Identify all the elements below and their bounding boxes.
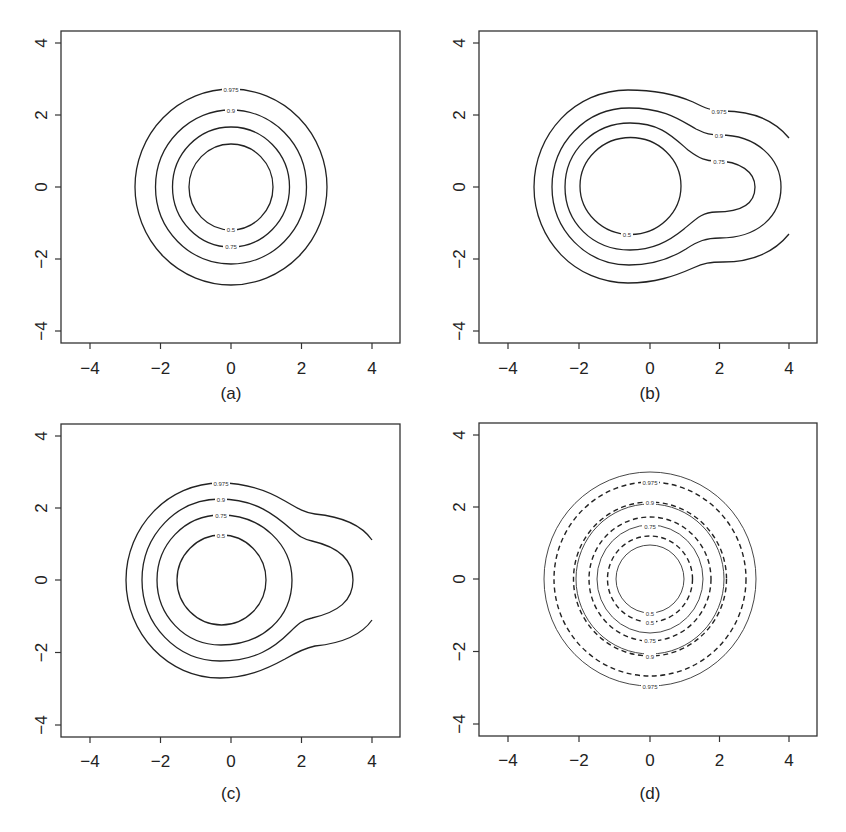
y-tick-label: 0 bbox=[32, 182, 51, 191]
x-tick-label: 2 bbox=[715, 751, 724, 770]
x-tick-label: −2 bbox=[569, 359, 588, 378]
y-tick-label: 2 bbox=[450, 502, 469, 511]
contour-label: 0.975 bbox=[642, 480, 658, 486]
contour-label: 0.9 bbox=[227, 108, 236, 114]
x-tick-label: −4 bbox=[498, 359, 517, 378]
x-tick-label: 0 bbox=[226, 752, 235, 771]
dashed-contour-0.5 bbox=[608, 536, 693, 622]
contour-0.975 bbox=[135, 89, 327, 285]
x-tick-label: −2 bbox=[151, 752, 170, 771]
y-axis: −4 −2 0 2 4 bbox=[450, 38, 479, 340]
x-axis: −4 −2 0 2 4 bbox=[80, 737, 376, 771]
contour-0.5 bbox=[177, 535, 266, 625]
x-tick-label: 4 bbox=[367, 752, 376, 771]
contour-0.5 bbox=[580, 138, 681, 235]
x-tick-label: 2 bbox=[297, 359, 306, 378]
x-tick-label: 4 bbox=[784, 751, 793, 770]
y-tick-label: −4 bbox=[32, 715, 51, 734]
y-tick-label: −2 bbox=[450, 642, 469, 661]
contour-label: 0.5 bbox=[227, 227, 236, 233]
contour-label: 0.9 bbox=[646, 500, 655, 506]
contour-labels: 0.975 0.9 0.75 0.5 bbox=[621, 108, 728, 238]
contour-label: 0.75 bbox=[644, 638, 656, 644]
contour-0.9 bbox=[142, 499, 353, 661]
contour-label: 0.975 bbox=[711, 109, 727, 115]
contour-label: 0.5 bbox=[646, 611, 655, 617]
y-tick-label: 2 bbox=[450, 110, 469, 119]
contour-lines bbox=[534, 90, 789, 283]
contour-label: 0.975 bbox=[223, 87, 239, 93]
x-tick-label: 0 bbox=[645, 359, 654, 378]
y-tick-label: 0 bbox=[32, 575, 51, 584]
y-tick-label: 0 bbox=[450, 182, 469, 191]
y-tick-label: 4 bbox=[32, 38, 51, 47]
panel-b: −4 −2 0 2 4 −4 −2 0 2 4 bbox=[450, 31, 817, 403]
y-tick-label: 2 bbox=[32, 503, 51, 512]
x-tick-label: −4 bbox=[80, 752, 99, 771]
plot-frame bbox=[61, 31, 400, 343]
x-tick-label: 2 bbox=[715, 359, 724, 378]
contour-0.9 bbox=[156, 110, 307, 264]
contour-lines-dashed bbox=[554, 482, 746, 676]
panel-d: −4 −2 0 2 4 −4 −2 0 2 4 bbox=[450, 423, 817, 803]
x-axis: −4 −2 0 2 4 bbox=[80, 343, 376, 378]
x-tick-label: 4 bbox=[367, 359, 376, 378]
contour-0.5 bbox=[189, 144, 273, 230]
y-tick-label: −4 bbox=[450, 321, 469, 340]
contour-labels: 0.975 0.9 0.75 0.5 bbox=[212, 480, 230, 539]
contour-label: 0.975 bbox=[213, 481, 229, 487]
contour-label: 0.9 bbox=[217, 497, 226, 503]
contour-lines bbox=[126, 483, 372, 678]
y-tick-label: 4 bbox=[450, 430, 469, 439]
contour-0.975 bbox=[126, 483, 372, 678]
contour-label: 0.75 bbox=[215, 513, 227, 519]
contour-label: 0.9 bbox=[715, 133, 724, 139]
contour-figure: −4 −2 0 2 4 −4 −2 0 2 4 0.975 bbox=[0, 0, 846, 832]
x-axis: −4 −2 0 2 4 bbox=[498, 343, 793, 378]
contour-labels: 0.975 0.9 0.75 0.5 0.5 0.75 0.9 0.975 bbox=[641, 479, 659, 690]
y-tick-label: −4 bbox=[32, 321, 51, 340]
y-axis: −4 −2 0 2 4 bbox=[32, 38, 61, 340]
x-tick-label: 4 bbox=[784, 359, 793, 378]
x-tick-label: 2 bbox=[297, 752, 306, 771]
x-tick-label: 0 bbox=[645, 751, 654, 770]
contour-label: 0.5 bbox=[623, 232, 632, 238]
panel-a: −4 −2 0 2 4 −4 −2 0 2 4 0.975 bbox=[32, 31, 400, 403]
y-tick-label: 4 bbox=[32, 431, 51, 440]
plot-frame bbox=[61, 424, 400, 737]
contour-0.975 bbox=[534, 90, 789, 283]
figure: −4 −2 0 2 4 −4 −2 0 2 4 0.975 bbox=[0, 0, 846, 832]
x-tick-label: −4 bbox=[80, 359, 99, 378]
contour-lines bbox=[135, 89, 327, 285]
panel-caption: (a) bbox=[221, 384, 242, 403]
contour-label: 0.75 bbox=[225, 244, 237, 250]
y-tick-label: −2 bbox=[450, 249, 469, 268]
y-axis: −4 −2 0 2 4 bbox=[32, 431, 61, 734]
solid-contour-0.75 bbox=[597, 525, 703, 633]
dashed-contour-0.975 bbox=[554, 482, 746, 676]
solid-contour-0.5 bbox=[616, 545, 684, 613]
y-tick-label: 4 bbox=[450, 38, 469, 47]
contour-label: 0.75 bbox=[713, 159, 725, 165]
contour-label: 0.75 bbox=[644, 524, 656, 530]
y-tick-label: −4 bbox=[450, 714, 469, 733]
panel-c: −4 −2 0 2 4 −4 −2 0 2 4 0.975 bbox=[32, 424, 400, 803]
panel-caption: (c) bbox=[221, 784, 241, 803]
y-tick-label: 2 bbox=[32, 110, 51, 119]
contour-label: 0.9 bbox=[646, 654, 655, 660]
x-tick-label: −4 bbox=[498, 751, 517, 770]
contour-label: 0.5 bbox=[217, 533, 226, 539]
plot-frame bbox=[479, 31, 817, 343]
panel-caption: (b) bbox=[640, 384, 661, 403]
y-axis: −4 −2 0 2 4 bbox=[450, 430, 479, 733]
panel-caption: (d) bbox=[640, 784, 661, 803]
x-tick-label: 0 bbox=[226, 359, 235, 378]
contour-0.75 bbox=[565, 123, 755, 250]
y-tick-label: 0 bbox=[450, 574, 469, 583]
y-tick-label: −2 bbox=[32, 249, 51, 268]
x-tick-label: −2 bbox=[569, 751, 588, 770]
y-tick-label: −2 bbox=[32, 643, 51, 662]
x-tick-label: −2 bbox=[151, 359, 170, 378]
contour-label: 0.975 bbox=[642, 684, 658, 690]
contour-label: 0.5 bbox=[646, 620, 655, 626]
